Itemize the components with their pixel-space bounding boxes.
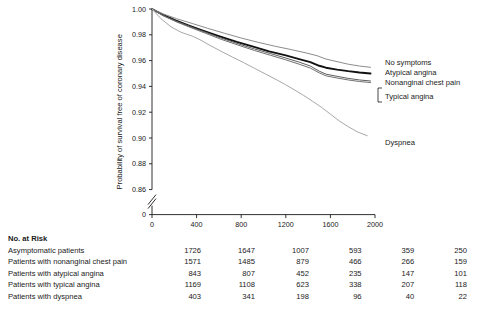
y-axis-tick-label: 0: [142, 210, 146, 219]
risk-cell: 147: [375, 268, 428, 279]
risk-table-row: Patients with dyspnea403341198964022: [8, 291, 480, 302]
risk-table-row: Patients with typical angina116911086233…: [8, 279, 480, 290]
risk-cell: 403: [160, 291, 214, 302]
series-line-no-symptoms: [152, 9, 371, 74]
x-axis-tick-label: 1600: [322, 220, 338, 229]
risk-cell: 235: [322, 268, 375, 279]
x-axis-tick-label: 1200: [278, 220, 294, 229]
risk-cell: 101: [427, 268, 480, 279]
risk-cell: 1571: [160, 256, 214, 267]
x-axis-tick-label: 400: [191, 220, 203, 229]
risk-cell: 843: [160, 268, 214, 279]
risk-cell: 466: [322, 256, 375, 267]
y-axis-tick-label: 1.00: [132, 5, 146, 14]
risk-cell: 250: [427, 245, 480, 256]
risk-cell: 359: [375, 245, 428, 256]
risk-cell: 341: [214, 291, 268, 302]
series-label-nonanginal-chest-pain: Nonanginal chest pain: [385, 78, 460, 87]
risk-table-row: Patients with atypical angina84380745223…: [8, 268, 480, 279]
risk-cell: 879: [268, 256, 322, 267]
risk-table-body: Asymptomatic patients1726164710075933592…: [8, 245, 480, 302]
risk-cell: 338: [322, 279, 375, 290]
x-axis-title: Days: [255, 231, 273, 232]
risk-cell: 118: [427, 279, 480, 290]
risk-cell: 198: [268, 291, 322, 302]
survival-curve-figure: 00.860.880.900.920.940.960.981.000400800…: [0, 0, 486, 232]
risk-table: Asymptomatic patients1726164710075933592…: [8, 245, 480, 302]
y-axis-tick-label: 0.98: [132, 30, 146, 39]
risk-table-row: Patients with nonanginal chest pain15711…: [8, 256, 480, 267]
y-axis-tick-label: 0.92: [132, 108, 146, 117]
risk-cell: 22: [427, 291, 480, 302]
series-label-no-symptoms: No symptoms: [385, 58, 432, 67]
risk-cell: 1169: [160, 279, 214, 290]
risk-table-row: Asymptomatic patients1726164710075933592…: [8, 245, 480, 256]
risk-cell: 1485: [214, 256, 268, 267]
y-axis-tick-label: 0.86: [132, 185, 146, 194]
risk-cell: 1007: [268, 245, 322, 256]
series-label-atypical-angina: Atypical angina: [385, 68, 437, 77]
risk-row-label: Asymptomatic patients: [8, 245, 160, 256]
y-axis-tick-label: 0.94: [132, 82, 146, 91]
risk-row-label: Patients with typical angina: [8, 279, 160, 290]
x-axis-tick-label: 2000: [367, 220, 383, 229]
y-axis-tick-label: 0.90: [132, 134, 146, 143]
series-label-typical-angina: Typical angina: [385, 92, 434, 101]
risk-cell: 40: [375, 291, 428, 302]
series-line-dyspnea: [152, 9, 367, 136]
risk-table-title: No. at Risk: [8, 234, 47, 243]
risk-row-label: Patients with dyspnea: [8, 291, 160, 302]
x-axis-tick-label: 800: [235, 220, 247, 229]
plot-canvas: 00.860.880.900.920.940.960.981.000400800…: [0, 0, 486, 232]
risk-cell: 807: [214, 268, 268, 279]
y-axis-tick-label: 0.88: [132, 159, 146, 168]
number-at-risk-section: No. at Risk Asymptomatic patients1726164…: [0, 234, 486, 315]
x-axis-tick-label: 0: [150, 220, 154, 229]
y-axis-title: Probability of survival free of coronary…: [115, 34, 124, 189]
risk-row-label: Patients with nonanginal chest pain: [8, 256, 160, 267]
risk-cell: 452: [268, 268, 322, 279]
risk-cell: 1647: [214, 245, 268, 256]
y-axis-tick-label: 0.96: [132, 56, 146, 65]
risk-cell: 96: [322, 291, 375, 302]
risk-row-label: Patients with atypical angina: [8, 268, 160, 279]
risk-cell: 207: [375, 279, 428, 290]
risk-cell: 623: [268, 279, 322, 290]
risk-cell: 266: [375, 256, 428, 267]
typical-angina-bracket: [378, 88, 382, 102]
risk-cell: 159: [427, 256, 480, 267]
series-line-atypical-angina: [152, 9, 371, 67]
risk-cell: 1108: [214, 279, 268, 290]
series-label-dyspnea: Dyspnea: [385, 138, 416, 147]
risk-cell: 593: [322, 245, 375, 256]
risk-cell: 1726: [160, 245, 214, 256]
